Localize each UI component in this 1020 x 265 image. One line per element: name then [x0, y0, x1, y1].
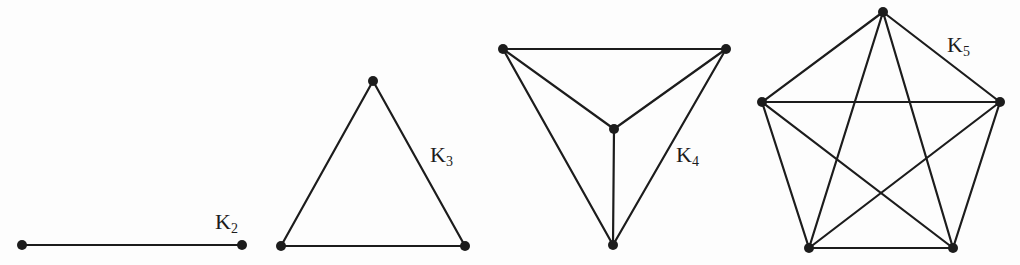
k2-label-subscript: 2: [231, 221, 238, 236]
k2-label-base: K: [215, 209, 231, 234]
k3-label-base: K: [430, 142, 446, 167]
k4-vertex: [721, 44, 731, 54]
k3-vertex: [368, 76, 378, 86]
k5-edge: [809, 102, 1000, 248]
k4-label-subscript: 4: [692, 154, 699, 169]
k4-label-base: K: [676, 142, 692, 167]
k5-edge: [883, 12, 953, 248]
k4-edge: [503, 49, 613, 245]
k5-edge: [809, 12, 883, 248]
k4-edge: [503, 49, 614, 129]
k2-label: K2: [215, 211, 238, 233]
k2-graph: [17, 240, 247, 250]
k2-vertex: [237, 240, 247, 250]
k5-label-subscript: 5: [963, 44, 970, 59]
k2-vertex: [17, 240, 27, 250]
k5-edge: [762, 102, 809, 248]
k5-edge: [953, 102, 1000, 248]
k3-label-subscript: 3: [446, 154, 453, 169]
k5-vertex: [995, 97, 1005, 107]
k5-label: K5: [947, 34, 970, 56]
graphs-canvas: [0, 0, 1020, 265]
k5-edge: [883, 12, 1000, 102]
k3-vertex: [460, 241, 470, 251]
k4-vertex: [498, 44, 508, 54]
k4-label: K4: [676, 144, 699, 166]
k4-edge: [613, 129, 614, 245]
k5-vertex: [878, 7, 888, 17]
k5-vertex: [804, 243, 814, 253]
k4-vertex: [609, 124, 619, 134]
k5-vertex: [948, 243, 958, 253]
k5-vertex: [757, 97, 767, 107]
k5-label-base: K: [947, 32, 963, 57]
k4-vertex: [608, 240, 618, 250]
k3-edge: [281, 81, 373, 246]
k4-edge: [614, 49, 726, 129]
k3-vertex: [276, 241, 286, 251]
k5-edge: [762, 12, 883, 102]
k3-label: K3: [430, 144, 453, 166]
complete-graphs-figure: K2 K3 K4 K5: [0, 0, 1020, 265]
k4-edge: [613, 49, 726, 245]
k5-edge: [762, 102, 953, 248]
